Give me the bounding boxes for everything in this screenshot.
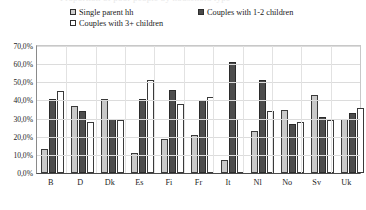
gridline-30 xyxy=(37,119,360,120)
y-axis-tick-4: 40,0% xyxy=(13,96,33,105)
bar-d-series-2[interactable] xyxy=(87,122,94,173)
x-axis-label-uk: Uk xyxy=(331,178,361,196)
y-axis-tick-6: 60,0% xyxy=(13,60,33,69)
bar-dk-series-2[interactable] xyxy=(117,120,124,173)
group-separator-4 xyxy=(154,46,155,173)
bar-uk-series-1[interactable] xyxy=(349,113,356,173)
legend-label-single-parent-hh: Single parent hh xyxy=(79,9,133,17)
group-separator-8 xyxy=(272,46,273,173)
x-axis-label-it: It xyxy=(213,178,243,196)
x-axis-label-b: B xyxy=(36,178,66,196)
bar-es-series-2[interactable] xyxy=(147,80,154,173)
legend-swatch-icon-single-parent-hh xyxy=(70,9,76,15)
x-axis-label-no: No xyxy=(272,178,302,196)
bar-es-series-0[interactable] xyxy=(131,153,138,173)
bar-d-series-0[interactable] xyxy=(71,106,78,173)
group-separator-3 xyxy=(125,46,126,173)
bar-sv-series-0[interactable] xyxy=(311,95,318,173)
x-axis-label-fr: Fr xyxy=(184,178,214,196)
group-separator-2 xyxy=(96,46,97,173)
bar-b-series-0[interactable] xyxy=(41,149,48,173)
legend-label-couples-1-2-children: Couples with 1-2 children xyxy=(207,9,293,17)
x-axis-labels: BDDkEsFiFrItNlNoSvUk xyxy=(36,178,361,196)
gridline-50 xyxy=(37,82,360,83)
legend-swatch-icon-couples-3plus-children xyxy=(70,20,76,26)
gridline-60 xyxy=(37,64,360,65)
y-axis-tick-7: 70,0% xyxy=(13,42,33,51)
bar-nl-series-1[interactable] xyxy=(259,80,266,173)
group-separator-1 xyxy=(66,46,67,173)
bar-no-series-2[interactable] xyxy=(297,122,304,173)
bar-fi-series-1[interactable] xyxy=(169,90,176,173)
chart-legend: Single parent hh Couples with 1-2 childr… xyxy=(0,7,366,34)
chart-plot-area: 0,0%10,0%20,0%30,0%40,0%50,0%60,0%70,0% … xyxy=(0,34,366,210)
x-axis-label-nl: Nl xyxy=(243,178,273,196)
gridline-40 xyxy=(37,100,360,101)
legend-item-couples-1-2-children: Couples with 1-2 children xyxy=(198,8,293,16)
legend-item-couples-3plus-children: Couples with 3+ children xyxy=(70,19,163,27)
group-separator-7 xyxy=(243,46,244,173)
legend-item-single-parent-hh: Single parent hh xyxy=(70,8,133,16)
bar-dk-series-1[interactable] xyxy=(109,119,116,173)
y-axis-tick-5: 50,0% xyxy=(13,78,33,87)
x-axis-label-dk: Dk xyxy=(95,178,125,196)
legend-swatch-icon-couples-1-2-children xyxy=(198,9,204,15)
bar-uk-series-0[interactable] xyxy=(341,119,348,173)
group-separator-9 xyxy=(301,46,302,173)
gridline-20 xyxy=(37,137,360,138)
bar-b-series-2[interactable] xyxy=(57,91,64,173)
y-axis-tick-2: 20,0% xyxy=(13,132,33,141)
bar-fi-series-2[interactable] xyxy=(177,104,184,173)
group-separator-10 xyxy=(331,46,332,173)
gridline-10 xyxy=(37,155,360,156)
y-axis-tick-0: 0,0% xyxy=(17,169,33,178)
bar-it-series-0[interactable] xyxy=(221,160,228,173)
legend-label-couples-3plus-children: Couples with 3+ children xyxy=(79,20,163,28)
plot-canvas xyxy=(36,45,361,174)
bar-d-series-1[interactable] xyxy=(79,111,86,173)
group-separator-6 xyxy=(213,46,214,173)
y-axis-tick-3: 30,0% xyxy=(13,114,33,123)
bar-uk-series-2[interactable] xyxy=(357,108,364,173)
x-axis-label-es: Es xyxy=(125,178,155,196)
x-axis-label-sv: Sv xyxy=(302,178,332,196)
group-separator-5 xyxy=(184,46,185,173)
x-axis-label-d: D xyxy=(66,178,96,196)
bar-no-series-1[interactable] xyxy=(289,124,296,173)
x-axis-label-fi: Fi xyxy=(154,178,184,196)
cut-off-title-strip: Proportion of poor people by household t… xyxy=(0,0,366,7)
bar-sv-series-1[interactable] xyxy=(319,117,326,173)
y-axis: 0,0%10,0%20,0%30,0%40,0%50,0%60,0%70,0% xyxy=(0,34,36,168)
y-axis-tick-1: 10,0% xyxy=(13,150,33,159)
page-title: Proportion of poor people by household t… xyxy=(60,0,230,3)
gridline-70 xyxy=(37,46,360,47)
